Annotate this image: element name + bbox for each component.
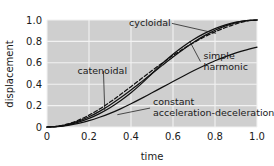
y-tick-label: 1.0: [26, 15, 42, 26]
x-tick-label: 0.2: [81, 131, 97, 142]
chart-figure: 00.20.40.60.81.0 00.20.40.60.81.0 time d…: [0, 0, 274, 166]
x-tick-label: 1.0: [249, 131, 265, 142]
x-tick-label: 0.4: [123, 131, 139, 142]
x-axis-label: time: [141, 151, 164, 162]
y-tick-label: 0: [36, 122, 42, 133]
y-tick-label: 0.8: [26, 36, 42, 47]
y-axis-label: displacement: [4, 40, 15, 107]
annotation-label: harmonic: [203, 61, 248, 72]
annotation-label: constant: [153, 96, 195, 107]
annotation-label: catenoidal: [77, 65, 127, 76]
y-tick-label: 0.6: [26, 57, 42, 68]
annotation-label: acceleration-deceleration: [153, 107, 274, 118]
annotation-label: simple: [203, 50, 235, 61]
y-tick-label: 0.4: [26, 79, 42, 90]
x-tick-label: 0.8: [207, 131, 223, 142]
y-tick-label: 0.2: [26, 100, 42, 111]
x-tick-label: 0: [44, 131, 50, 142]
displacement-vs-time-chart: 00.20.40.60.81.0 00.20.40.60.81.0 time d…: [0, 0, 274, 166]
x-tick-label: 0.6: [165, 131, 181, 142]
annotation-label: cycloidal: [129, 17, 171, 28]
